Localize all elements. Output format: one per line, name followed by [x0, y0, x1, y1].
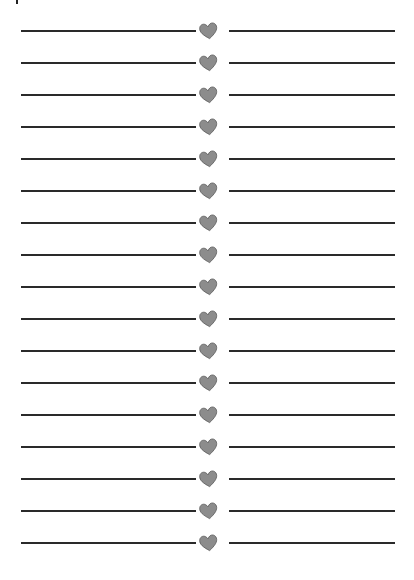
- writing-line-right: [229, 30, 395, 32]
- writing-line-left: [21, 62, 196, 64]
- writing-row: [0, 467, 414, 491]
- writing-line-left: [21, 414, 196, 416]
- writing-line-right: [229, 382, 395, 384]
- heart-icon: [198, 213, 219, 232]
- writing-line-right: [229, 446, 395, 448]
- writing-line-left: [21, 254, 196, 256]
- writing-line-left: [21, 510, 196, 512]
- writing-row: [0, 307, 414, 331]
- heart-icon: [198, 501, 219, 520]
- heart-icon: [198, 341, 219, 360]
- heart-icon: [198, 181, 219, 200]
- writing-line-right: [229, 126, 395, 128]
- writing-line-right: [229, 62, 395, 64]
- corner-mark: [16, 0, 18, 4]
- writing-row: [0, 147, 414, 171]
- writing-row: [0, 179, 414, 203]
- writing-line-left: [21, 30, 196, 32]
- writing-row: [0, 435, 414, 459]
- writing-line-left: [21, 222, 196, 224]
- heart-icon: [198, 245, 219, 264]
- writing-line-left: [21, 158, 196, 160]
- heart-icon: [198, 405, 219, 424]
- writing-line-right: [229, 286, 395, 288]
- writing-row: [0, 531, 414, 555]
- writing-line-left: [21, 350, 196, 352]
- writing-line-right: [229, 414, 395, 416]
- writing-line-right: [229, 190, 395, 192]
- heart-icon: [198, 85, 219, 104]
- writing-line-left: [21, 126, 196, 128]
- writing-line-right: [229, 158, 395, 160]
- writing-row: [0, 275, 414, 299]
- writing-row: [0, 19, 414, 43]
- writing-line-left: [21, 286, 196, 288]
- writing-line-left: [21, 190, 196, 192]
- writing-line-left: [21, 318, 196, 320]
- writing-line-right: [229, 222, 395, 224]
- writing-row: [0, 115, 414, 139]
- writing-line-left: [21, 478, 196, 480]
- heart-icon: [198, 469, 219, 488]
- writing-row: [0, 243, 414, 267]
- writing-row: [0, 371, 414, 395]
- writing-line-right: [229, 318, 395, 320]
- writing-row: [0, 339, 414, 363]
- heart-icon: [198, 437, 219, 456]
- writing-line-right: [229, 254, 395, 256]
- heart-icon: [198, 373, 219, 392]
- writing-line-right: [229, 94, 395, 96]
- writing-row: [0, 211, 414, 235]
- writing-line-left: [21, 542, 196, 544]
- writing-line-right: [229, 350, 395, 352]
- writing-line-left: [21, 382, 196, 384]
- writing-row: [0, 403, 414, 427]
- writing-row: [0, 83, 414, 107]
- writing-line-right: [229, 478, 395, 480]
- heart-icon: [198, 309, 219, 328]
- heart-icon: [198, 533, 219, 552]
- writing-row: [0, 51, 414, 75]
- heart-icon: [198, 117, 219, 136]
- writing-line-left: [21, 94, 196, 96]
- writing-row: [0, 499, 414, 523]
- heart-icon: [198, 53, 219, 72]
- writing-line-left: [21, 446, 196, 448]
- heart-icon: [198, 277, 219, 296]
- heart-icon: [198, 21, 219, 40]
- heart-icon: [198, 149, 219, 168]
- writing-line-right: [229, 510, 395, 512]
- writing-line-right: [229, 542, 395, 544]
